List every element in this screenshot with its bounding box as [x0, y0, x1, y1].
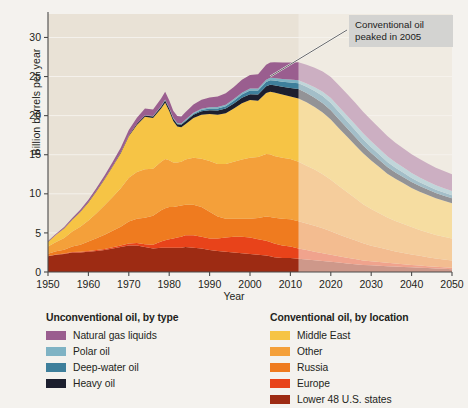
y-tick-label: 0 [35, 266, 41, 278]
legend-swatch-icon [46, 363, 66, 372]
legend-swatch-icon [46, 331, 66, 340]
x-tick-label: 1950 [36, 278, 60, 290]
legend-item[interactable]: Heavy oil [38, 376, 178, 391]
legend-item-label: Deep-water oil [73, 362, 139, 373]
legend-item-label: Europe [297, 378, 330, 389]
legend-item-label: Polar oil [73, 346, 110, 357]
legend-item[interactable]: Middle East [262, 328, 409, 343]
x-tick-label: 2000 [238, 278, 262, 290]
legend-item[interactable]: Other [262, 344, 409, 359]
y-axis-title: Billion barrels per year [30, 22, 42, 182]
x-tick-label: 1990 [198, 278, 222, 290]
legend-item-label: Lower 48 U.S. states [297, 394, 392, 405]
x-tick-label: 2020 [319, 278, 343, 290]
legend-item[interactable]: Europe [262, 376, 409, 391]
x-tick-label: 2050 [440, 278, 464, 290]
y-tick-label: 5 [35, 227, 41, 239]
annotation-callout: Conventional oil peaked in 2005 [349, 15, 453, 47]
x-tick-label: 1960 [77, 278, 101, 290]
legend-item[interactable]: Natural gas liquids [38, 328, 178, 343]
annotation-line-2: peaked in 2005 [355, 31, 421, 42]
legend-title-conventional: Conventional oil, by location [270, 312, 409, 323]
legend-item-label: Heavy oil [73, 378, 115, 389]
legend-group-conventional: Conventional oil, by location Middle Eas… [262, 312, 409, 408]
x-tick-label: 2040 [400, 278, 424, 290]
legend-group-unconventional: Unconventional oil, by type Natural gas … [38, 312, 178, 392]
annotation-line-1: Conventional oil [355, 19, 424, 30]
y-tick-label: 10 [29, 187, 41, 199]
x-tick-label: 1970 [117, 278, 141, 290]
legend-swatch-icon [270, 347, 290, 356]
x-tick-label: 2030 [360, 278, 384, 290]
legend-swatch-icon [270, 395, 290, 404]
legend-swatch-icon [46, 379, 66, 388]
legend-item[interactable]: Russia [262, 360, 409, 375]
legend-item-label: Middle East [297, 330, 350, 341]
legend-swatch-icon [270, 363, 290, 372]
legend-item[interactable]: Polar oil [38, 344, 178, 359]
legend-item-label: Other [297, 346, 323, 357]
projection-overlay [298, 14, 452, 272]
x-tick-label: 2010 [279, 278, 303, 290]
legend-swatch-icon [270, 331, 290, 340]
x-tick-label: 1980 [158, 278, 182, 290]
legend-item[interactable]: Lower 48 U.S. states [262, 392, 409, 407]
legend-item-label: Natural gas liquids [73, 330, 157, 341]
chart-legend: Unconventional oil, by type Natural gas … [0, 312, 468, 401]
legend-item-label: Russia [297, 362, 328, 373]
legend-swatch-icon [46, 347, 66, 356]
legend-title-unconventional: Unconventional oil, by type [46, 312, 178, 323]
legend-swatch-icon [270, 379, 290, 388]
x-axis-title: Year [0, 290, 468, 302]
legend-item[interactable]: Deep-water oil [38, 360, 178, 375]
